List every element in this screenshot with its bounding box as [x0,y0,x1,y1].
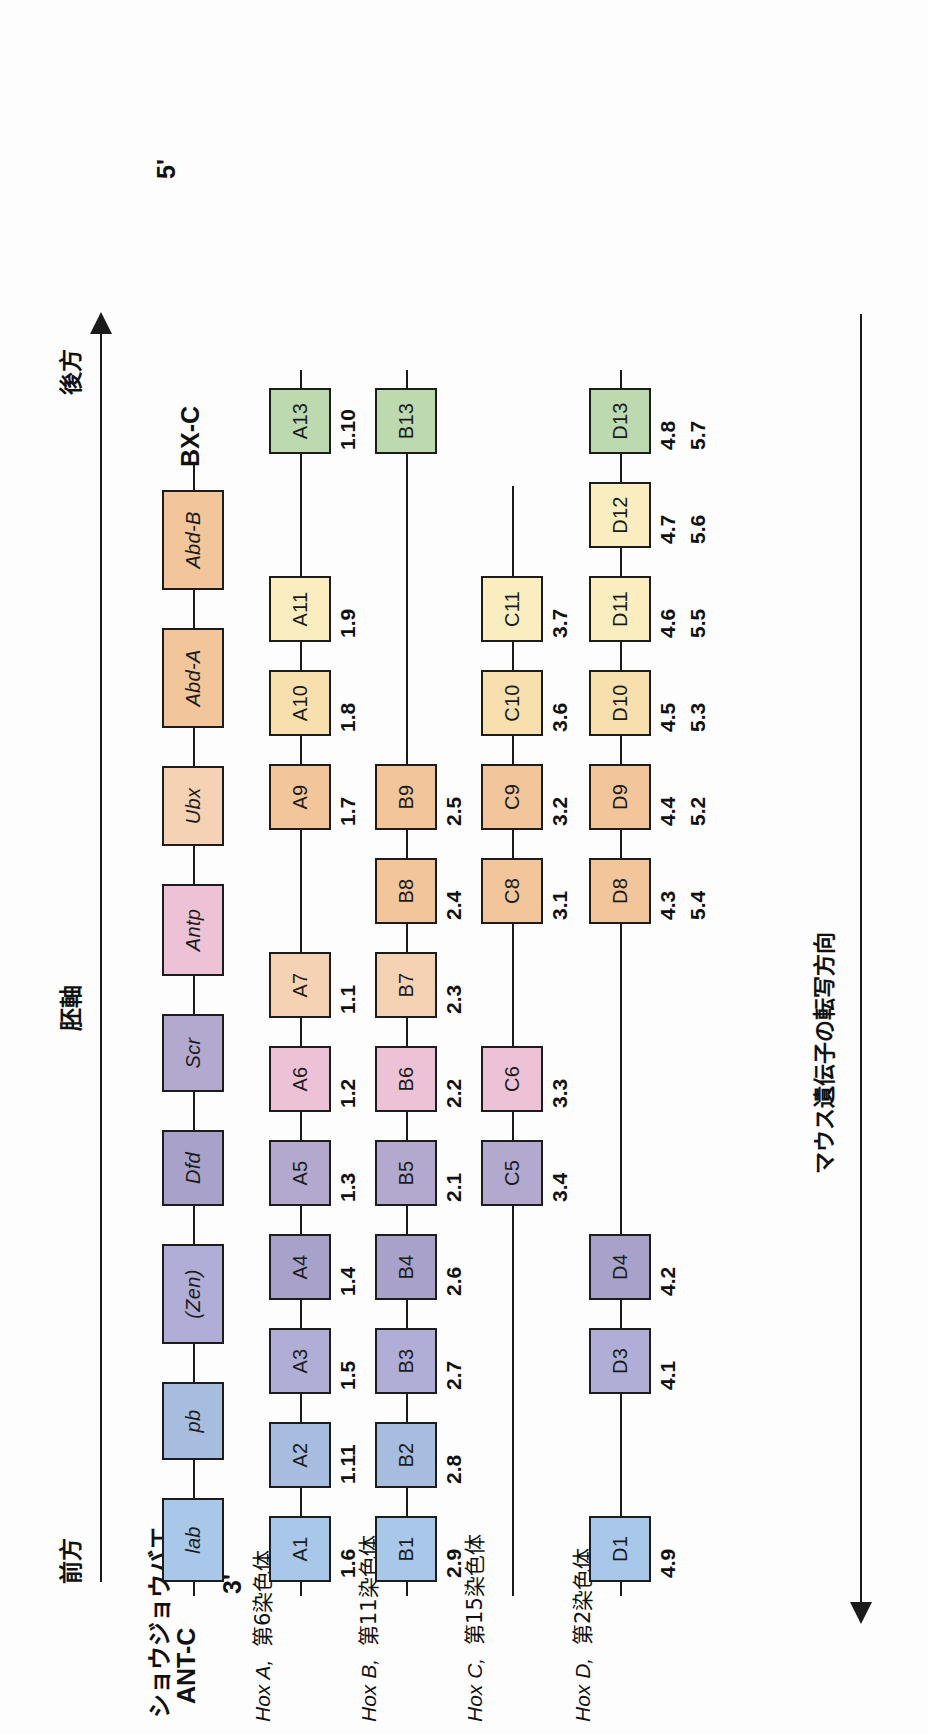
hoxb-gene-box-B1: B1 [375,1516,437,1582]
hoxd-gene-label: D3 [609,1348,632,1374]
hoxa-gene-number: 1.3 [336,1173,360,1202]
hoxa-gene-label: A1 [289,1536,312,1561]
hoxb-gene-box-B9: B9 [375,764,437,830]
hoxc-gene-label: C8 [501,878,524,904]
hoxa-gene-number: 1.8 [336,703,360,732]
hoxb-gene-number: 2.6 [442,1267,466,1296]
hoxa-gene-box-A10: A10 [269,670,331,736]
hoxd-gene-number: 4.1 [656,1361,680,1390]
hoxb-gene-number: 2.2 [442,1079,466,1108]
drosophila-gene-box-Ubx: Ubx [162,766,224,846]
hoxa-gene-number: 1.1 [336,985,360,1014]
hoxa-gene-number: 1.5 [336,1361,360,1390]
hoxd-gene-number: 4.3 [656,891,680,920]
hoxa-gene-box-A5: A5 [269,1140,331,1206]
anterior-posterior-axis-line [100,332,102,1582]
hoxb-gene-number: 2.4 [442,891,466,920]
hoxa-gene-number: 1.2 [336,1079,360,1108]
hoxd-gene-box-D10: D10 [589,670,651,736]
hoxa-gene-label: A11 [289,592,312,627]
drosophila-gene-label: lab [182,1526,205,1554]
hoxc-gene-number: 3.7 [548,609,572,638]
hoxd-gene-number-secondary: 5.3 [686,703,710,732]
hoxa-gene-number: 1.9 [336,609,360,638]
hoxd-gene-number: 4.8 [656,421,680,450]
posterior-label: 後方 [52,349,86,395]
hoxa-gene-number: 1.11 [336,1444,360,1484]
five-prime-label: 5' [152,159,181,179]
hoxc-gene-label: C9 [501,784,524,810]
hoxd-gene-number-secondary: 5.5 [686,609,710,638]
hoxd-gene-label: D4 [609,1254,632,1280]
hoxb-gene-label: B13 [395,403,418,440]
hoxc-gene-box-C5: C5 [481,1140,543,1206]
hox-cluster-diagram: 前方 胚軸 後方 ショウジョウバエ ANT-C BX-C 3' 5' labpb… [0,0,928,1734]
axis-arrowhead-icon [90,312,112,334]
hoxd-gene-label: D1 [609,1536,632,1562]
hoxd-cluster-line [620,370,622,1596]
hoxa-gene-label: A2 [289,1442,312,1467]
drosophila-gene-box-Zen: (Zen) [162,1244,224,1344]
bx-c-label: BX-C [176,406,205,467]
drosophila-gene-box-pb: pb [162,1382,224,1460]
drosophila-gene-box-lab: lab [162,1498,224,1582]
hoxb-gene-box-B2: B2 [375,1422,437,1488]
hoxb-gene-label: B4 [395,1254,418,1279]
hoxa-gene-box-A13: A13 [269,388,331,454]
hoxd-gene-number-secondary: 5.7 [686,421,710,450]
hoxd-gene-number: 4.4 [656,797,680,826]
hoxb-gene-box-B13: B13 [375,388,437,454]
drosophila-gene-box-AbdA: Abd-A [162,628,224,728]
hoxc-gene-box-C10: C10 [481,670,543,736]
hoxa-gene-label: A6 [289,1066,312,1091]
hoxc-gene-label: C11 [501,591,524,627]
hoxb-species-label: Hox B, [357,1659,380,1722]
hoxd-gene-number-secondary: 5.4 [686,891,710,920]
hoxa-gene-box-A11: A11 [269,576,331,642]
hoxc-gene-number: 3.6 [548,703,572,732]
hoxb-gene-box-B7: B7 [375,952,437,1018]
ant-c-label: ANT-C [172,1628,201,1704]
hoxd-gene-number-secondary: 5.2 [686,797,710,826]
hoxc-gene-label: C5 [501,1160,524,1186]
hoxb-gene-box-B3: B3 [375,1328,437,1394]
drosophila-gene-box-Dfd: Dfd [162,1130,224,1206]
hoxc-species-label: Hox C, [463,1658,486,1722]
hoxa-gene-label: A3 [289,1348,312,1373]
drosophila-gene-label: (Zen) [182,1269,205,1318]
hoxd-gene-box-D1: D1 [589,1516,651,1582]
hoxb-gene-label: B8 [395,878,418,903]
hoxc-gene-box-C6: C6 [481,1046,543,1112]
hoxa-gene-box-A2: A2 [269,1422,331,1488]
hoxd-gene-number-secondary: 5.6 [686,515,710,544]
hoxd-gene-number: 4.2 [656,1267,680,1296]
hoxd-gene-number: 4.6 [656,609,680,638]
hoxb-gene-label: B2 [395,1442,418,1467]
hoxb-gene-number: 2.7 [442,1361,466,1390]
hoxd-gene-label: D12 [609,496,632,534]
hoxc-gene-number: 3.4 [548,1173,572,1202]
hoxc-gene-number: 3.1 [548,891,572,920]
drosophila-gene-label: Ubx [182,788,205,824]
hoxb-gene-number: 2.5 [442,797,466,826]
hoxb-gene-number: 2.8 [442,1455,466,1484]
hoxd-gene-box-D9: D9 [589,764,651,830]
hoxb-gene-label: B1 [395,1536,418,1561]
hoxc-gene-label: C6 [501,1066,524,1092]
hoxd-gene-label: D11 [609,591,632,627]
drosophila-gene-box-AbdB: Abd-B [162,490,224,590]
hoxd-gene-label: D9 [609,784,632,810]
hoxa-gene-box-A4: A4 [269,1234,331,1300]
hoxd-gene-box-D12: D12 [589,482,651,548]
hoxa-gene-number: 1.4 [336,1267,360,1296]
hoxb-gene-label: B7 [395,972,418,997]
hoxd-gene-label: D13 [609,402,632,440]
drosophila-gene-label: Abd-B [182,511,205,568]
hoxd-gene-label: D8 [609,878,632,904]
hoxb-gene-box-B6: B6 [375,1046,437,1112]
hoxa-gene-box-A7: A7 [269,952,331,1018]
hoxa-gene-number: 1.10 [336,409,360,450]
drosophila-gene-label: Scr [182,1038,205,1069]
hoxb-gene-label: B9 [395,784,418,809]
hoxc-row-label: Hox C, 第15染色体 [458,1534,488,1722]
